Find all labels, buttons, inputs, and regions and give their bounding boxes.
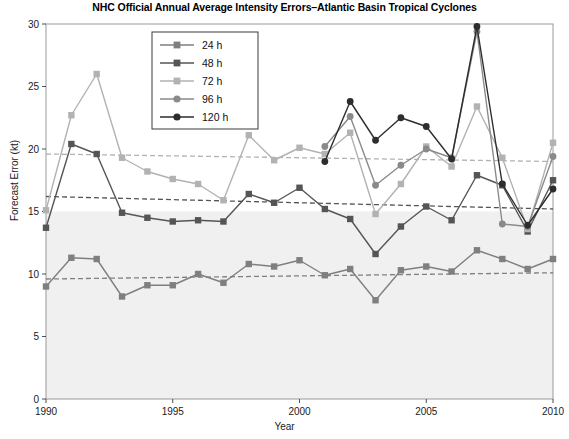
legend: 24 h48 h72 h96 h120 h — [152, 32, 258, 129]
data-point — [448, 163, 454, 169]
data-point — [94, 71, 100, 77]
data-point — [119, 293, 125, 299]
data-point — [195, 271, 201, 277]
data-point — [321, 158, 328, 165]
legend-label: 120 h — [202, 111, 228, 123]
y-tick-label: 0 — [33, 394, 39, 405]
data-point — [448, 217, 454, 223]
data-point — [398, 267, 404, 273]
data-point — [271, 263, 277, 269]
data-point — [398, 223, 404, 229]
legend-sample-marker — [173, 95, 180, 102]
data-point — [119, 155, 125, 161]
data-point — [474, 103, 480, 109]
data-point — [322, 206, 328, 212]
legend-sample-marker — [173, 113, 180, 120]
legend-label: 72 h — [202, 75, 223, 87]
data-point — [474, 247, 480, 253]
data-point — [448, 268, 454, 274]
data-point — [372, 251, 378, 257]
data-point — [347, 98, 354, 105]
legend-label: 96 h — [202, 93, 223, 105]
data-point — [220, 280, 226, 286]
data-point — [170, 176, 176, 182]
data-point — [372, 137, 379, 144]
data-point — [423, 123, 430, 130]
data-point — [246, 132, 252, 138]
data-point — [474, 172, 480, 178]
data-point — [170, 218, 176, 224]
data-point — [220, 218, 226, 224]
x-tick-label: 2005 — [415, 406, 438, 417]
data-point — [68, 255, 74, 261]
data-point — [43, 225, 49, 231]
data-point — [119, 210, 125, 216]
data-point — [347, 130, 353, 136]
legend-label: 48 h — [202, 57, 223, 69]
data-point — [144, 215, 150, 221]
legend-sample-marker — [174, 78, 181, 85]
x-tick-label: 2010 — [542, 406, 565, 417]
plot-lower-tint — [46, 212, 553, 400]
data-point — [524, 266, 530, 272]
data-point — [296, 257, 302, 263]
data-point — [296, 185, 302, 191]
data-point — [94, 151, 100, 157]
y-tick-label: 10 — [28, 269, 40, 280]
data-point — [499, 221, 506, 228]
data-point — [474, 23, 481, 30]
data-point — [68, 141, 74, 147]
data-point — [398, 181, 404, 187]
data-point — [43, 283, 49, 289]
data-point — [550, 177, 556, 183]
data-point — [423, 146, 430, 153]
data-point — [246, 191, 252, 197]
data-point — [499, 256, 505, 262]
data-point — [499, 155, 505, 161]
data-point — [347, 113, 354, 120]
data-point — [322, 272, 328, 278]
data-point — [372, 211, 378, 217]
data-point — [195, 181, 201, 187]
data-point — [550, 153, 557, 160]
data-point — [144, 282, 150, 288]
data-point — [68, 112, 74, 118]
data-point — [398, 162, 405, 169]
data-point — [94, 256, 100, 262]
chart-figure: NHC Official Annual Average Intensity Er… — [0, 0, 569, 439]
data-point — [550, 186, 557, 193]
y-tick-label: 25 — [28, 81, 40, 92]
data-point — [372, 182, 379, 189]
data-point — [296, 145, 302, 151]
data-point — [144, 168, 150, 174]
data-point — [423, 263, 429, 269]
data-point — [448, 156, 455, 163]
y-tick-label: 5 — [33, 331, 39, 342]
data-point — [321, 143, 328, 150]
y-tick-label: 30 — [28, 19, 40, 30]
data-point — [398, 114, 405, 121]
legend-sample-marker — [174, 60, 181, 67]
data-point — [499, 181, 506, 188]
data-point — [550, 140, 556, 146]
data-point — [550, 256, 556, 262]
data-point — [271, 157, 277, 163]
data-point — [372, 297, 378, 303]
x-tick-label: 1990 — [35, 406, 58, 417]
data-point — [195, 217, 201, 223]
data-point — [524, 222, 531, 229]
data-point — [220, 197, 226, 203]
data-point — [347, 266, 353, 272]
plot-area: 0510152025301990199520002005201024 h48 h… — [0, 0, 569, 439]
y-tick-label: 15 — [28, 206, 40, 217]
data-point — [246, 261, 252, 267]
legend-sample-marker — [174, 42, 181, 49]
data-point — [423, 203, 429, 209]
data-point — [347, 216, 353, 222]
data-point — [43, 207, 49, 213]
x-tick-label: 1995 — [162, 406, 185, 417]
y-tick-label: 20 — [28, 144, 40, 155]
data-point — [170, 282, 176, 288]
x-tick-label: 2000 — [288, 406, 311, 417]
data-point — [271, 200, 277, 206]
